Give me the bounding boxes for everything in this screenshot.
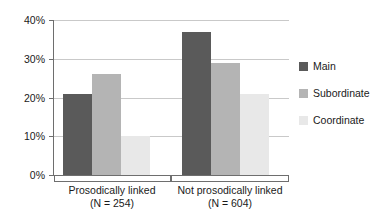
bar: [211, 63, 240, 175]
legend-label: Subordinate: [313, 87, 370, 99]
y-axis-tick: [49, 98, 53, 99]
category-label-text: Prosodically linked: [69, 184, 156, 196]
bar-chart: 40%30%20%10%0% Prosodically linked(N = 2…: [0, 0, 378, 218]
legend-swatch-icon: [299, 89, 308, 98]
legend-label: Main: [313, 60, 336, 72]
legend-item[interactable]: Coordinate: [299, 114, 375, 141]
bar: [240, 94, 269, 175]
category-sample-size: (N = 604): [160, 197, 300, 210]
bar: [121, 136, 150, 175]
gridline: [54, 20, 289, 21]
y-axis-tick: [49, 20, 53, 21]
y-axis-tick: [49, 136, 53, 137]
y-axis-tick-label: 30%: [5, 54, 45, 65]
legend-swatch-icon: [299, 62, 308, 71]
bar: [182, 32, 211, 175]
category-axis-rule: [54, 181, 170, 182]
bar: [92, 74, 121, 175]
category-axis-tick: [171, 176, 172, 182]
category-axis-tick: [288, 176, 289, 182]
y-axis-tick: [49, 59, 53, 60]
y-axis-tick-label: 0%: [5, 170, 45, 181]
legend-item[interactable]: Subordinate: [299, 87, 375, 114]
bar: [63, 94, 92, 175]
category-label: Not prosodically linked(N = 604): [160, 184, 300, 210]
y-axis-tick-label: 20%: [5, 93, 45, 104]
category-axis-tick: [54, 176, 55, 182]
y-axis-tick-label: 40%: [5, 15, 45, 26]
legend-swatch-icon: [299, 116, 308, 125]
category-label-text: Not prosodically linked: [177, 184, 282, 196]
category-axis: [53, 176, 289, 182]
category-axis-rule: [171, 181, 288, 182]
plot-area: 40%30%20%10%0%: [53, 20, 289, 175]
legend-label: Coordinate: [313, 114, 364, 126]
gridline: [54, 59, 289, 60]
y-axis-tick-label: 10%: [5, 131, 45, 142]
legend-item[interactable]: Main: [299, 60, 375, 87]
chart-legend: MainSubordinateCoordinate: [299, 60, 375, 141]
